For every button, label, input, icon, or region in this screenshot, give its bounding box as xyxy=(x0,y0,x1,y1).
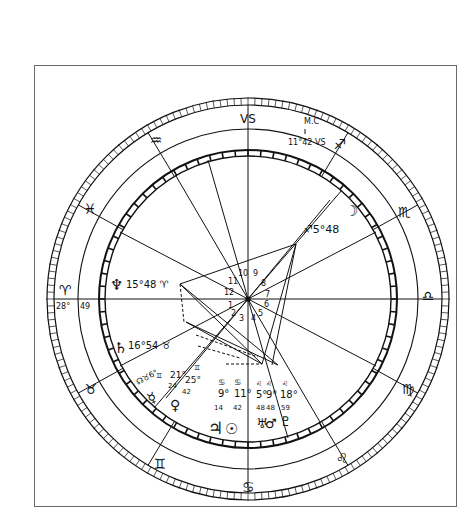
ascendant-degree: 28° xyxy=(56,302,70,311)
house-number-5: 5 xyxy=(258,309,263,318)
planet-moon: ♐5°48 ☽ xyxy=(303,202,358,236)
leo-small-glyph-2: ♌ xyxy=(266,380,272,388)
zodiac-sign-labels: VS ♒ ♐ ♓ ♏ ♈ ♎ ♉ ♍ ♊ ♌ ♋ xyxy=(59,112,435,495)
house-number-12: 12 xyxy=(224,288,234,297)
house-number-8: 8 xyxy=(261,279,266,288)
neptune-icon: ♆ xyxy=(110,276,123,294)
house-number-10: 10 xyxy=(238,269,248,278)
mercury-degree: 21° xyxy=(170,370,186,380)
sign-aquarius-glyph: ♒ xyxy=(150,132,163,148)
jupiter-degree: 9° xyxy=(218,388,229,399)
cancer-small-glyph-1: ♋ xyxy=(218,378,225,387)
gemini-small-glyph-1: ♊ xyxy=(156,372,162,380)
sign-scorpio-glyph: ♏ xyxy=(398,204,411,220)
pluto-minutes: 59 xyxy=(281,404,290,412)
uranus-minutes: 48 xyxy=(256,404,265,412)
house-number-7: 7 xyxy=(265,290,270,299)
sign-aries-glyph: ♈ xyxy=(59,282,72,298)
mercury-minutes: 24 xyxy=(168,382,177,390)
sign-libra-glyph: ♎ xyxy=(422,288,435,304)
ascendant-minutes: 49 xyxy=(80,302,90,311)
planet-neptune: ♆ 15°48 ♈ xyxy=(110,276,169,294)
sign-sagittarius-glyph: ♐ xyxy=(334,136,347,152)
house-number-3: 3 xyxy=(239,314,244,323)
neptune-position: 15°48 ♈ xyxy=(126,279,169,290)
gemini-small-glyph-2: ♊ xyxy=(194,364,200,372)
saturn-icon: ♄ xyxy=(114,339,127,357)
sign-capricorn-label: VS xyxy=(240,112,256,126)
ascendant-marker: 28° 49 xyxy=(56,302,90,311)
chart-center-dot xyxy=(245,296,250,301)
moon-icon: ☽ xyxy=(345,202,358,220)
pluto-icon: ♇ xyxy=(280,414,292,429)
mercury-icon: ☿ xyxy=(145,389,160,407)
venus-degree: 25° xyxy=(185,375,201,385)
mars-minutes: 48 xyxy=(266,404,275,412)
house-number-4: 4 xyxy=(251,314,256,323)
jupiter-minutes: 14 xyxy=(214,404,223,412)
sign-taurus-glyph: ♉ xyxy=(85,381,98,397)
sun-minutes: 42 xyxy=(233,404,242,412)
mc-degree: 11°42 VS xyxy=(288,138,325,147)
house-number-11: 11 xyxy=(228,277,238,286)
cancer-small-glyph-2: ♋ xyxy=(234,378,241,387)
leo-small-glyph-1: ♌ xyxy=(256,380,262,388)
sign-virgo-glyph: ♍ xyxy=(402,381,415,397)
house-number-6: 6 xyxy=(264,300,269,309)
leo-small-glyph-3: ♌ xyxy=(282,380,288,388)
house-number-9: 9 xyxy=(253,269,258,278)
sun-icon: ☉ xyxy=(225,420,238,438)
sun-degree: 11° xyxy=(234,388,252,399)
sign-gemini-glyph: ♊ xyxy=(154,456,167,472)
venus-minutes: 42 xyxy=(182,388,191,396)
mars-degree: 9° xyxy=(266,389,277,400)
natal-chart-wheel: 1 2 3 4 5 6 7 8 9 10 11 12 VS ♒ ♐ ♓ ♏ ♈ … xyxy=(0,0,470,522)
venus-icon: ♀ xyxy=(170,397,180,413)
house-number-2: 2 xyxy=(231,309,236,318)
planet-mars: ♌ 9° 48 ♂ xyxy=(265,380,277,431)
midheaven-marker: M.C 11°42 VS xyxy=(288,117,325,147)
sign-pisces-glyph: ♓ xyxy=(84,201,97,217)
sign-cancer-glyph: ♋ xyxy=(242,479,255,495)
mars-icon: ♂ xyxy=(265,416,277,431)
sign-leo-glyph: ♌ xyxy=(336,450,349,466)
planet-pluto: ♌ 18° 59 ♇ xyxy=(280,380,298,429)
saturn-position: 16°54 ♉ xyxy=(128,340,171,351)
moon-position: ♐5°48 xyxy=(303,223,339,236)
mc-label: M.C xyxy=(304,117,319,126)
pluto-degree: 18° xyxy=(280,389,298,400)
jupiter-icon: ♃ xyxy=(208,418,223,438)
